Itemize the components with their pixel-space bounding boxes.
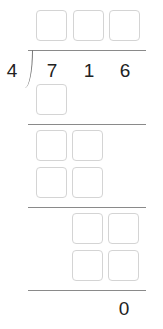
dividend-digit-ones: 6 bbox=[115, 61, 135, 81]
quotient-hundreds-box[interactable] bbox=[36, 10, 67, 41]
product-3-box-2[interactable] bbox=[108, 250, 139, 281]
difference-1-box-2[interactable] bbox=[72, 130, 103, 161]
quotient-ones-box[interactable] bbox=[109, 10, 140, 41]
divisor: 4 bbox=[2, 61, 22, 81]
division-bar bbox=[28, 50, 146, 51]
subtraction-line-2 bbox=[28, 207, 146, 208]
subtraction-line-1 bbox=[28, 124, 146, 125]
difference-2-box-2[interactable] bbox=[108, 213, 139, 244]
product-2-box-1[interactable] bbox=[36, 167, 67, 198]
subtraction-line-3 bbox=[28, 290, 146, 291]
remainder: 0 bbox=[114, 299, 134, 319]
quotient-tens-box[interactable] bbox=[73, 10, 104, 41]
product-3-box-1[interactable] bbox=[72, 250, 103, 281]
difference-2-box-1[interactable] bbox=[72, 213, 103, 244]
difference-1-box-1[interactable] bbox=[36, 130, 67, 161]
dividend-digit-tens: 1 bbox=[79, 61, 99, 81]
product-2-box-2[interactable] bbox=[72, 167, 103, 198]
division-bracket bbox=[24, 50, 33, 88]
product-1-box-1[interactable] bbox=[36, 84, 67, 115]
dividend-digit-hundreds: 7 bbox=[42, 61, 62, 81]
